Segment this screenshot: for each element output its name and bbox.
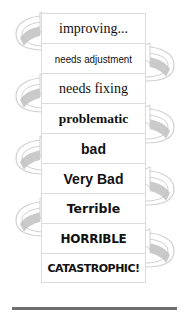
level-label: bad [81, 141, 106, 157]
level-label: needs adjustment [55, 53, 132, 65]
level-horrible: HORRIBLE [41, 223, 146, 253]
level-bad: bad [41, 133, 146, 163]
scale-stack: improving... needs adjustment needs fixi… [41, 13, 146, 283]
level-label: problematic [59, 111, 129, 127]
level-very-bad: Very Bad [41, 163, 146, 193]
level-needs-adjustment: needs adjustment [41, 43, 146, 73]
level-label: Very Bad [64, 171, 124, 187]
level-label: Terrible [67, 201, 121, 216]
level-needs-fixing: needs fixing [41, 73, 146, 103]
level-label: improving... [59, 21, 128, 37]
level-label: CATASTROPHIC! [47, 262, 139, 275]
level-label: needs fixing [59, 81, 128, 97]
level-catastrophic: CATASTROPHIC! [41, 253, 146, 283]
level-problematic: problematic [41, 103, 146, 133]
bottom-rule [12, 307, 177, 310]
level-terrible: Terrible [41, 193, 146, 223]
level-label: HORRIBLE [61, 232, 127, 246]
level-improving: improving... [41, 13, 146, 43]
